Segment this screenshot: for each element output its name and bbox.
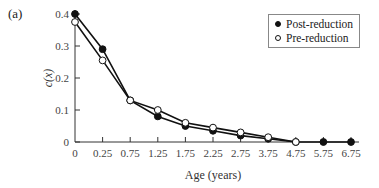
open-circle-marker (210, 124, 217, 131)
open-circle-marker (237, 129, 244, 136)
filled-circle-marker (72, 11, 79, 18)
filled-circle-marker (99, 46, 106, 53)
y-tick-label: 0.1 (55, 104, 69, 116)
x-tick-label: 1.25 (148, 147, 168, 159)
legend-label: Post-reduction (286, 17, 353, 31)
legend-label: Pre-reduction (286, 31, 349, 45)
filled-circle-marker (320, 139, 327, 146)
x-axis-title: Age (years) (185, 168, 241, 182)
y-tick-label: 0.2 (55, 72, 69, 84)
x-tick-label: 2.25 (203, 147, 223, 159)
y-tick-label: 0 (64, 136, 70, 148)
y-tick-label: 0.3 (55, 40, 69, 52)
x-tick-label: 0 (72, 147, 78, 159)
legend: Post-reduction Pre-reduction (268, 14, 360, 48)
open-circle-marker (72, 19, 79, 26)
filled-circle-marker (348, 139, 355, 146)
open-circle-marker (292, 139, 299, 146)
open-circle-icon (275, 35, 281, 41)
filled-circle-marker (154, 113, 161, 120)
y-axis-title: c(x) (41, 69, 55, 88)
open-circle-marker (127, 97, 134, 104)
x-tick-label: 3.75 (259, 147, 279, 159)
filled-circle-icon (275, 21, 281, 27)
open-circle-marker (182, 119, 189, 126)
legend-item-post: Post-reduction (275, 17, 353, 31)
x-tick-label: 2.75 (231, 147, 251, 159)
x-tick-label: 5.75 (314, 147, 334, 159)
x-tick-label: 6.75 (341, 147, 361, 159)
open-circle-marker (154, 107, 161, 114)
x-tick-label: 1.75 (176, 147, 196, 159)
open-circle-marker (265, 134, 272, 141)
y-tick-label: 0.4 (55, 8, 69, 20)
legend-item-pre: Pre-reduction (275, 31, 353, 45)
x-tick-label: 0.25 (93, 147, 113, 159)
open-circle-marker (99, 57, 106, 64)
x-tick-label: 4.75 (286, 147, 306, 159)
x-tick-label: 0.75 (121, 147, 141, 159)
